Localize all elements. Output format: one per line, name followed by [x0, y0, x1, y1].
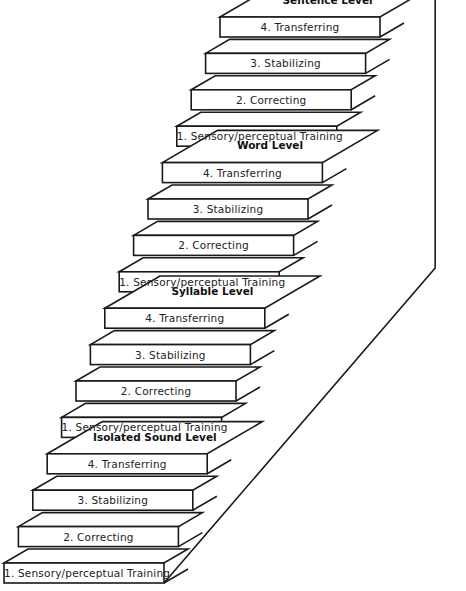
step-tread: [90, 331, 274, 345]
step-side-edge: [322, 169, 346, 183]
step-tread: [33, 476, 217, 490]
step-label: 1. Sensory/perceptual Training: [4, 568, 164, 579]
level-heading: Syllable Level: [132, 286, 292, 297]
step-label: 2. Correcting: [191, 95, 351, 106]
step-side-edge: [294, 241, 318, 255]
step-label: 2. Correcting: [18, 532, 178, 543]
step-tread: [177, 112, 361, 126]
level-heading: Sentence Level: [248, 0, 408, 5]
step-label: 3. Stabilizing: [90, 350, 250, 361]
step-side-edge: [250, 351, 274, 365]
step-label: 4. Transferring: [162, 168, 322, 179]
level-heading: Isolated Sound Level: [75, 432, 235, 443]
step-tread: [206, 39, 390, 53]
step-side-edge: [207, 460, 231, 474]
step-label: 2. Correcting: [76, 386, 236, 397]
step-label: 4. Transferring: [47, 459, 207, 470]
step-tread: [76, 367, 260, 381]
step-label: 3. Stabilizing: [206, 58, 366, 69]
step-side-edge: [308, 205, 332, 219]
step-side-edge: [236, 387, 260, 401]
step-label: 3. Stabilizing: [33, 495, 193, 506]
step-label: 4. Transferring: [105, 313, 265, 324]
step-tread: [191, 76, 375, 90]
step-side-edge: [193, 496, 217, 510]
step-tread: [18, 513, 202, 527]
step-side-edge: [366, 59, 390, 73]
step-label: 3. Stabilizing: [148, 204, 308, 215]
step-tread: [4, 549, 188, 563]
step-side-edge: [178, 533, 202, 547]
step-label: 2. Correcting: [134, 240, 294, 251]
step-label: 4. Transferring: [220, 22, 380, 33]
step-side-edge: [265, 314, 289, 328]
step-tread: [148, 185, 332, 199]
step-side-edge: [380, 23, 404, 37]
step-tread: [134, 221, 318, 235]
step-side-edge: [351, 96, 375, 110]
level-heading: Word Level: [190, 140, 350, 151]
step-tread: [119, 258, 303, 272]
step-tread: [62, 403, 246, 417]
